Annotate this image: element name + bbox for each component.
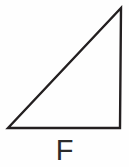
right-triangle-outline [8, 8, 121, 128]
figure-canvas: F [0, 0, 129, 167]
shape-label: F [0, 136, 129, 165]
